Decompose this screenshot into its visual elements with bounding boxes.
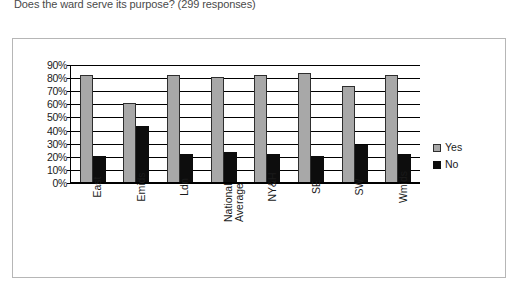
y-tick-label: 20% bbox=[47, 151, 67, 162]
legend-item[interactable]: No bbox=[433, 156, 497, 173]
legend-swatch-icon bbox=[433, 161, 441, 169]
y-tick-label: 30% bbox=[47, 138, 67, 149]
bar-group bbox=[71, 65, 115, 182]
x-label-cell: National Average bbox=[201, 185, 245, 259]
bar-yes bbox=[123, 103, 136, 182]
bar-no bbox=[311, 156, 324, 182]
chart-screenshot: Does the ward serve its purpose? (299 re… bbox=[0, 0, 519, 286]
y-tick-label: 50% bbox=[47, 112, 67, 123]
x-tick-label: Wmids bbox=[398, 171, 409, 203]
x-label-cell: SW bbox=[333, 185, 377, 259]
y-tick-label: 60% bbox=[47, 99, 67, 110]
x-tick-label: East bbox=[92, 176, 103, 197]
x-tick-label: Emids bbox=[136, 172, 147, 201]
bar-yes bbox=[254, 75, 267, 183]
bar-group bbox=[333, 65, 377, 182]
gridline bbox=[71, 183, 420, 184]
x-label-cell: NY&H bbox=[245, 185, 289, 259]
bar-groups bbox=[71, 65, 420, 182]
bar-yes bbox=[80, 75, 93, 183]
x-tick-label: SW bbox=[354, 179, 365, 196]
bar-yes bbox=[298, 73, 311, 182]
bar-group bbox=[289, 65, 333, 182]
x-label-cell: Ldn bbox=[158, 185, 202, 259]
y-tick-label: 40% bbox=[47, 125, 67, 136]
x-label-cell: Emids bbox=[114, 185, 158, 259]
y-tick-label: 70% bbox=[47, 86, 67, 97]
bar-yes bbox=[385, 75, 398, 183]
y-tick-label: 0% bbox=[52, 178, 67, 189]
bar-group bbox=[158, 65, 202, 182]
y-tick-label: 90% bbox=[47, 60, 67, 71]
y-axis: 90%80%70%60%50%40%30%20%10%0% bbox=[27, 65, 67, 183]
y-tick-mark bbox=[67, 183, 71, 184]
bar-yes bbox=[167, 75, 180, 183]
legend-item[interactable]: Yes bbox=[433, 139, 497, 156]
x-tick-label: SE bbox=[311, 180, 322, 194]
x-tick-label: National Average bbox=[223, 152, 245, 222]
x-tick-label: Ldn bbox=[179, 178, 190, 196]
x-tick-label: NY&H bbox=[267, 172, 278, 201]
plot-area bbox=[70, 65, 420, 183]
chart-caption: Does the ward serve its purpose? (299 re… bbox=[14, 0, 494, 12]
legend-swatch-icon bbox=[433, 144, 441, 152]
legend-label: No bbox=[445, 159, 458, 170]
legend-label: Yes bbox=[445, 142, 462, 153]
bar-group bbox=[115, 65, 159, 182]
bar-no bbox=[355, 145, 368, 182]
x-label-cell: SE bbox=[289, 185, 333, 259]
x-axis-labels: EastEmidsLdnNational AverageNY&HSESWWmid… bbox=[70, 185, 420, 259]
x-label-cell: Wmids bbox=[376, 185, 420, 259]
bar-group bbox=[246, 65, 290, 182]
plot-wrapper: 90%80%70%60%50%40%30%20%10%0% EastEmidsL… bbox=[13, 39, 507, 279]
bar-yes bbox=[342, 86, 355, 182]
chart-frame: 90%80%70%60%50%40%30%20%10%0% EastEmidsL… bbox=[12, 38, 506, 278]
chart-legend: YesNo bbox=[433, 139, 497, 173]
y-tick-label: 80% bbox=[47, 73, 67, 84]
y-tick-label: 10% bbox=[47, 164, 67, 175]
bar-yes bbox=[211, 77, 224, 182]
x-label-cell: East bbox=[70, 185, 114, 259]
bar-group bbox=[376, 65, 420, 182]
